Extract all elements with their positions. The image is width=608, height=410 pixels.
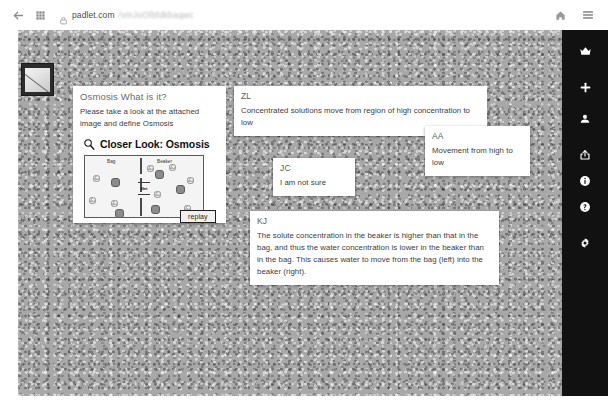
- solute-molecule: [155, 170, 164, 179]
- url-path: /vmJoOlbfdkbaqwc: [119, 10, 194, 20]
- help-icon[interactable]: [562, 194, 608, 220]
- water-molecule: [154, 192, 161, 198]
- water-molecule: [147, 166, 154, 172]
- site-info-icon[interactable]: [59, 11, 68, 20]
- water-molecule: [93, 176, 100, 182]
- water-molecule: [169, 165, 176, 171]
- post-author: ZL: [241, 91, 480, 102]
- board-thumbnail-image: [25, 68, 50, 92]
- post-card-jc[interactable]: JC I am not sure: [273, 158, 355, 196]
- action-rail: [562, 30, 608, 396]
- url-domain: padlet.com: [72, 10, 115, 20]
- diagram-label-bag: Bag: [107, 159, 115, 164]
- post-attachment[interactable]: Closer Look: Osmosis Bag Beaker: [80, 136, 219, 218]
- post-body: The solute concentration in the beaker i…: [257, 230, 492, 278]
- browser-toolbar: padlet.com /vmJoOlbfdkbaqwc: [0, 0, 608, 30]
- membrane-segment: [140, 198, 142, 216]
- browser-right-controls: [554, 9, 600, 22]
- net-flow-marker: Net: [137, 182, 151, 195]
- magnifier-icon: [83, 137, 96, 150]
- person-icon[interactable]: [562, 106, 608, 132]
- post-body: Please take a look at the attached image…: [80, 106, 219, 130]
- share-icon[interactable]: [562, 142, 608, 168]
- post-card-main[interactable]: Osmosis What is it? Please take a look a…: [73, 86, 226, 223]
- padlet-app: Osmosis What is it? Please take a look a…: [0, 30, 608, 396]
- post-author: JC: [280, 163, 348, 174]
- post-card-aa[interactable]: AA Movement from high to low: [425, 126, 530, 176]
- post-body: Movement from high to low: [432, 145, 523, 169]
- post-author: KJ: [257, 216, 492, 227]
- wall-left-edge: [0, 30, 20, 396]
- hamburger-menu-icon[interactable]: [581, 9, 594, 22]
- osmosis-diagram: Bag Beaker Net: [84, 155, 204, 218]
- solute-molecule: [115, 209, 124, 218]
- gear-icon[interactable]: [562, 230, 608, 256]
- back-arrow-icon[interactable]: [12, 9, 25, 22]
- browser-nav-group: [8, 9, 47, 22]
- water-molecule: [89, 198, 96, 204]
- apps-grid-icon[interactable]: [34, 9, 47, 22]
- plus-icon[interactable]: [562, 74, 608, 100]
- post-card-kj[interactable]: KJ The solute concentration in the beake…: [250, 211, 499, 285]
- attachment-header: Closer Look: Osmosis: [80, 136, 219, 153]
- info-icon[interactable]: [562, 168, 608, 194]
- post-body: I am not sure: [280, 177, 348, 189]
- crown-icon[interactable]: [562, 38, 608, 64]
- board-thumbnail[interactable]: [21, 63, 54, 96]
- solute-molecule: [176, 185, 185, 194]
- post-title: Osmosis What is it?: [80, 91, 219, 103]
- replay-button[interactable]: replay: [180, 210, 216, 223]
- post-author: AA: [432, 131, 523, 142]
- water-molecule: [187, 178, 194, 184]
- solute-molecule: [151, 205, 160, 214]
- water-molecule: [111, 201, 118, 207]
- home-icon[interactable]: [554, 9, 567, 22]
- address-bar[interactable]: padlet.com /vmJoOlbfdkbaqwc: [59, 10, 554, 20]
- membrane-segment: [140, 158, 142, 174]
- attachment-title: Closer Look: Osmosis: [100, 138, 209, 150]
- solute-molecule: [111, 178, 120, 187]
